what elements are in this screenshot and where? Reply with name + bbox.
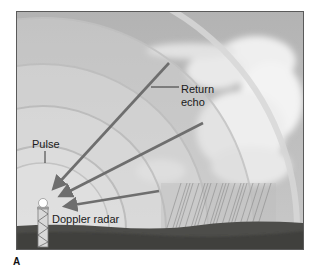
- return-echo-label-line1: Return: [181, 83, 214, 95]
- doppler-radar-label: Doppler radar: [52, 213, 119, 225]
- return-echo-label-line2: echo: [181, 96, 205, 108]
- pulse-label: Pulse: [32, 138, 60, 150]
- panel-label: A: [13, 256, 20, 267]
- doppler-radar-figure: Return echo Pulse Doppler radar: [16, 11, 304, 250]
